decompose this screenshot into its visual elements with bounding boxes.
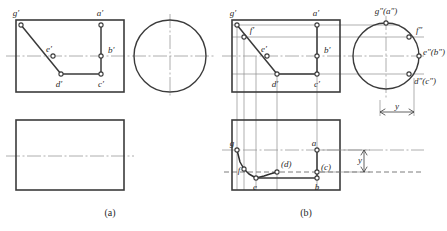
panel-b-top-view-outline	[232, 120, 340, 190]
figure-root: g′a′b′e′d′c′ g′f′e′a′b′d′c′g″(a″)f″e″(b″…	[0, 0, 447, 231]
side-point-d2c2	[407, 72, 411, 76]
front-label-lbl_c1: c′	[314, 79, 321, 89]
figure-captions: (a)(b)	[104, 207, 311, 219]
point-marker-b1	[99, 54, 103, 58]
panel-a-top-view-outline	[16, 120, 124, 190]
front-label-lbl_g1: g′	[230, 8, 238, 18]
top-label-lbl_d: (d)	[281, 159, 292, 169]
point-marker-a1	[99, 23, 103, 27]
panel-b-top-curve	[237, 150, 277, 178]
front-point-c1	[315, 72, 319, 76]
front-label-lbl_a1: a′	[313, 8, 321, 18]
point-marker-c1	[99, 72, 103, 76]
side-label-lbl_d2: d″(c″)	[414, 76, 436, 86]
side-point-g2a2	[384, 21, 388, 25]
top-label-lbl_f: f	[238, 165, 242, 175]
label-lbl_a1: a′	[97, 8, 105, 18]
point-marker-e1	[51, 54, 55, 58]
front-point-d1	[275, 72, 279, 76]
side-point-e2b2	[417, 54, 421, 58]
side-label-lbl_g2: g″(a″)	[375, 6, 398, 16]
point-marker-d1	[59, 72, 63, 76]
point-marker-g1	[19, 23, 23, 27]
front-label-lbl_d1: d′	[272, 79, 280, 89]
panel-a: g′a′b′e′d′c′	[6, 8, 214, 190]
top-point-c	[315, 170, 319, 174]
top-point-a	[315, 148, 319, 152]
front-point-b1	[315, 54, 319, 58]
label-lbl_e1: e′	[46, 44, 53, 54]
top-label-lbl_e: e	[253, 182, 257, 192]
front-label-lbl_e1: e′	[261, 44, 268, 54]
top-label-lbl_c: (c)	[321, 162, 331, 172]
top-point-e	[254, 176, 258, 180]
caption-cap_b: (b)	[300, 207, 312, 219]
top-point-f	[242, 167, 246, 171]
dimension-label-dim_y_top: y	[357, 155, 362, 165]
top-label-lbl_a: a	[312, 138, 317, 148]
top-point-b	[315, 176, 319, 180]
caption-cap_a: (a)	[104, 207, 115, 219]
label-lbl_c1: c′	[98, 79, 105, 89]
label-lbl_g1: g′	[13, 8, 21, 18]
side-point-f2	[407, 35, 411, 39]
dimension-label-dim_y_side: y	[394, 101, 399, 111]
technical-drawing-svg: g′a′b′e′d′c′ g′f′e′a′b′d′c′g″(a″)f″e″(b″…	[0, 0, 447, 231]
panel-b: g′f′e′a′b′d′c′g″(a″)f″e″(b″)d″(c″)gfe(d)…	[222, 6, 445, 192]
label-lbl_d1: d′	[56, 79, 64, 89]
front-point-a1	[315, 23, 319, 27]
side-label-lbl_e2: e″(b″)	[423, 47, 445, 57]
label-lbl_b1: b′	[108, 45, 116, 55]
front-label-lbl_b1: b′	[324, 45, 332, 55]
top-point-g	[235, 148, 239, 152]
front-point-g1	[235, 23, 239, 27]
top-point-d	[275, 170, 279, 174]
top-label-lbl_b: b	[315, 182, 320, 192]
front-label-lbl_f1: f′	[250, 25, 256, 35]
side-label-lbl_f2: f″	[416, 25, 423, 35]
panel-a-cut-polyline	[21, 25, 101, 74]
front-point-f1	[242, 35, 246, 39]
front-point-e1	[265, 54, 269, 58]
top-label-lbl_g: g	[230, 138, 235, 148]
